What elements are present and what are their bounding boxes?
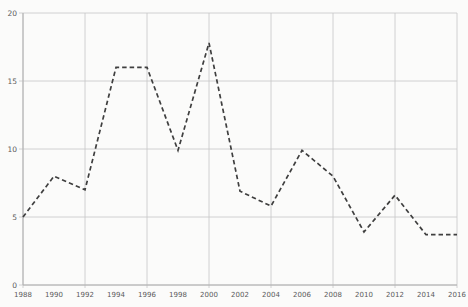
- x-tick-label: 1988: [14, 291, 32, 299]
- y-tick-label: 10: [7, 145, 17, 154]
- x-tick-label: 1990: [45, 291, 63, 299]
- x-tick-label: 1998: [169, 291, 187, 299]
- x-tick-label: 2004: [262, 291, 280, 299]
- y-tick-label: 15: [7, 77, 17, 86]
- x-tick-label: 2010: [355, 291, 373, 299]
- x-tick-label: 1992: [76, 291, 94, 299]
- y-tick-label: 20: [7, 9, 17, 18]
- x-tick-label: 2008: [324, 291, 342, 299]
- x-tick-label: 2002: [231, 291, 249, 299]
- y-tick-label: 5: [12, 213, 17, 222]
- x-tick-label: 1996: [138, 291, 156, 299]
- chart-screenshot: 0510152019881990199219941996199820002002…: [0, 0, 468, 307]
- chart-background: [0, 0, 468, 307]
- line-chart: 0510152019881990199219941996199820002002…: [0, 0, 468, 307]
- x-tick-label: 2000: [200, 291, 218, 299]
- x-tick-label: 2012: [386, 291, 404, 299]
- x-tick-label: 1994: [107, 291, 125, 299]
- x-tick-label: 2014: [417, 291, 435, 299]
- y-tick-label: 0: [12, 281, 17, 290]
- x-tick-label: 2006: [293, 291, 311, 299]
- x-tick-label: 2016: [448, 291, 466, 299]
